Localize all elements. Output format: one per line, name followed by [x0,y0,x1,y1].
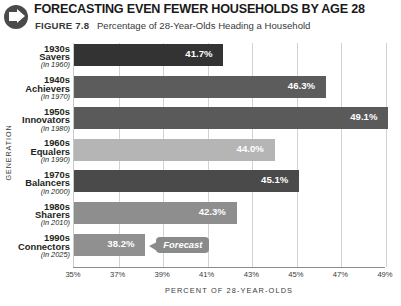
x-tick-label: 47% [333,270,348,279]
figure-number: FIGURE 7.8 [35,20,89,31]
category-label-1930s: 1930sSavers(in 1960) [4,45,70,70]
figure-subtitle: FIGURE 7.8 Percentage of 28-Year-Olds He… [35,20,310,31]
bar-value-label: 49.1% [350,111,377,122]
category-label-1970s: 1970sBalancers(in 2000) [4,171,70,196]
bar-row: 42.3% [74,202,386,224]
bar-value-label: 44.0% [237,143,264,154]
bar-chart: 1930sSavers(in 1960)1940sAchievers(in 19… [0,40,401,306]
category-year: (in 2010) [4,219,70,227]
page-title: FORECASTING EVEN FEWER HOUSEHOLDS BY AGE… [34,2,365,16]
bar-row: 45.1% [74,170,386,192]
x-tick-label: 49% [377,270,392,279]
x-tick-label: 39% [155,270,170,279]
x-axis-line [73,267,385,268]
x-axis-title: PERCENT OF 28-YEAR-OLDS [73,286,385,295]
forecast-callout: Forecast [156,237,209,253]
bar-row: 38.2% [74,234,386,256]
bar-value-label: 41.7% [185,48,212,59]
category-year: (in 2025) [4,251,70,259]
category-label-1940s: 1940sAchievers(in 1970) [4,76,70,101]
category-year: (in 1990) [4,156,70,164]
category-label-1990s: 1990sConnectors(in 2025) [4,234,70,259]
category-year: (in 2000) [4,188,70,196]
bar-value-label: 46.3% [288,80,315,91]
bar-row: 49.1% [74,107,386,129]
arrow-glyph [9,12,18,21]
category-year: (in 1970) [4,93,70,101]
x-tick-label: 37% [110,270,125,279]
category-label-1960s: 1960sEqualers(in 1990) [4,139,70,164]
gridline [386,43,387,267]
x-tick-label: 41% [199,270,214,279]
right-arrow-circle-icon [4,5,28,29]
bar-value-label: 42.3% [199,206,226,217]
bar-row: 44.0% [74,139,386,161]
x-tick-label: 45% [288,270,303,279]
bar-row: 41.7% [74,44,386,66]
plot-area: 41.7%46.3%49.1%44.0%45.1%42.3%38.2% [73,43,386,267]
category-year: (in 1980) [4,125,70,133]
y-axis-title: GENERATION [4,118,13,188]
x-tick-label: 35% [65,270,80,279]
category-year: (in 1960) [4,61,70,69]
figure-caption: Percentage of 28-Year-Olds Heading a Hou… [97,20,311,31]
figure-header: FORECASTING EVEN FEWER HOUSEHOLDS BY AGE… [0,0,401,40]
category-label-1980s: 1980sSharers(in 2010) [4,203,70,228]
bar-row: 46.3% [74,76,386,98]
x-tick-label: 43% [244,270,259,279]
bar-value-label: 38.2% [107,238,134,249]
category-label-1950s: 1950sInnovators(in 1980) [4,108,70,133]
bar-value-label: 45.1% [261,174,288,185]
bar-1950s [74,107,388,129]
